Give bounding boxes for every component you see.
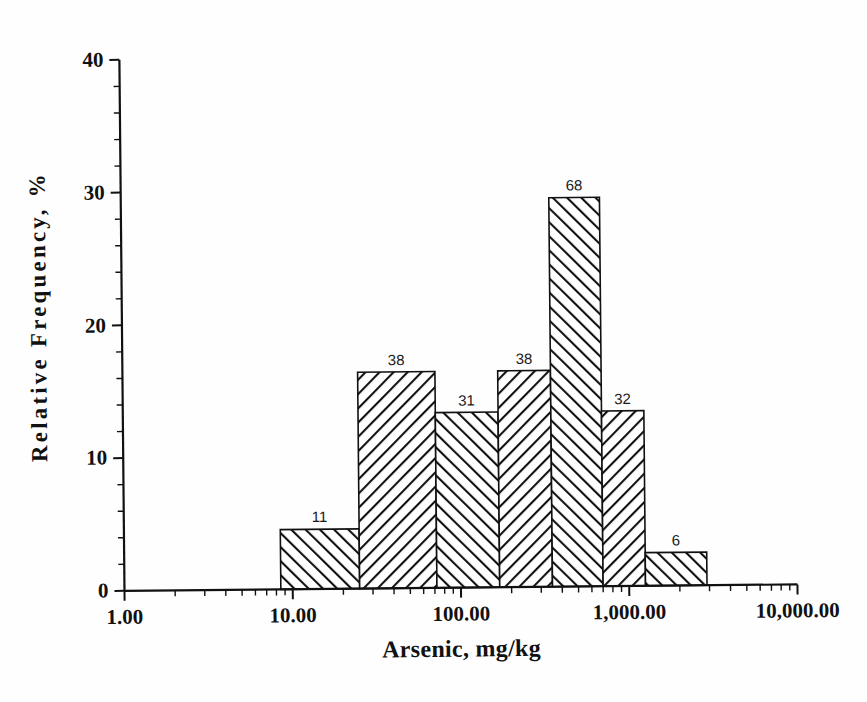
histogram-bar xyxy=(358,371,437,588)
bar-series xyxy=(277,196,707,589)
histogram-bar xyxy=(498,370,553,587)
chart-skew-wrapper: Relative Frequency, % Arsenic, mg/kg 010… xyxy=(0,0,867,702)
histogram-bar xyxy=(645,552,707,586)
chart-figure: Relative Frequency, % Arsenic, mg/kg 010… xyxy=(0,0,867,702)
histogram-bar xyxy=(280,529,359,589)
histogram-bar xyxy=(549,197,603,586)
histogram-bar xyxy=(435,412,499,588)
histogram-plot xyxy=(0,0,867,702)
histogram-bar xyxy=(601,411,645,587)
